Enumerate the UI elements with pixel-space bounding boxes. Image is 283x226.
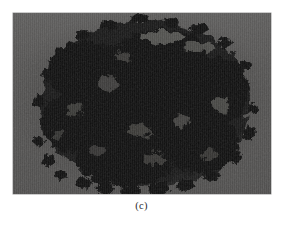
scan-line-artifact xyxy=(13,13,271,194)
illumination-vignette xyxy=(13,13,271,194)
figure-caption: (c) xyxy=(0,199,283,212)
micrograph-image xyxy=(13,13,271,194)
figure-panel: (c) xyxy=(0,0,283,226)
particle-agglomerate xyxy=(13,13,271,194)
